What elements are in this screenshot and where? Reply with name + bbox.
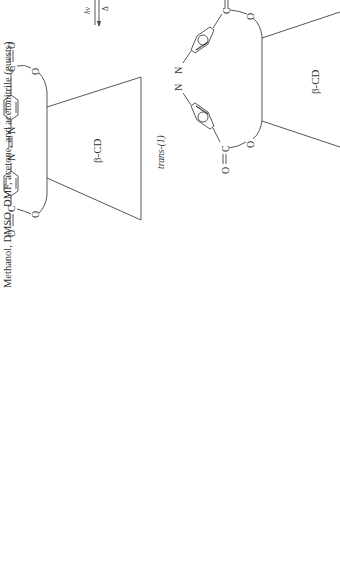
- arrow-label-delta: Δ: [101, 6, 110, 11]
- benzene-ring-icon: [191, 27, 214, 53]
- atom-o: O: [30, 68, 41, 75]
- atom-c: C: [6, 65, 17, 72]
- atom-o: O: [220, 167, 231, 174]
- benzene-ring-icon: [191, 103, 214, 129]
- atom-n: N: [6, 154, 17, 161]
- arrow-label-hv: hν: [83, 6, 92, 14]
- compound-label: trans-(1): [156, 135, 167, 169]
- atom-o: O: [245, 13, 256, 20]
- atom-c: C: [6, 205, 17, 212]
- beta-cd-label: β-CD: [91, 138, 103, 163]
- atom-o: O: [30, 211, 41, 218]
- atom-o: O: [6, 230, 17, 237]
- cis-atom-labels: N N C C O O O: [173, 7, 256, 174]
- atom-n: N: [173, 84, 184, 91]
- trans-complex: [4, 50, 141, 226]
- beta-cd-label: β-CD: [309, 69, 321, 94]
- atom-c: C: [220, 145, 231, 152]
- atom-o: O: [6, 42, 17, 49]
- atom-o: O: [245, 141, 256, 148]
- photoisomerization-arrow: [95, 0, 101, 26]
- caption-text: Methanol, DMSO, DMF, acetone, and aceton…: [2, 41, 14, 288]
- atom-c: C: [221, 7, 232, 14]
- atom-n: N: [6, 127, 17, 134]
- reaction-scheme: Methanol, DMSO, DMF, acetone, and aceton…: [0, 0, 340, 573]
- atom-n: N: [173, 67, 184, 74]
